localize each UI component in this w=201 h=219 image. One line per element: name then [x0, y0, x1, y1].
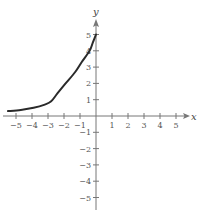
y-tick-label: 5: [86, 31, 91, 40]
y-tick-label: 2: [86, 79, 91, 88]
x-tick-label: 3: [141, 121, 146, 130]
y-tick-label: −1: [79, 128, 91, 137]
x-tick-label: −4: [26, 121, 38, 130]
y-tick-label: −4: [79, 177, 91, 186]
x-axis-label: x: [191, 111, 197, 122]
x-tick-label: 2: [125, 121, 130, 130]
y-axis-label: y: [92, 6, 99, 17]
x-tick-label: −5: [10, 121, 22, 130]
x-tick-label: 5: [173, 121, 178, 130]
plot-curves: [8, 35, 96, 112]
x-tick-label: −3: [42, 121, 54, 130]
coordinate-plane: −5−4−3−2−112345 −5−4−3−2−112345 x y: [0, 0, 201, 219]
y-tick-label: −5: [79, 194, 91, 203]
y-tick-label: −2: [79, 145, 91, 154]
x-tick-label: 1: [109, 121, 114, 130]
y-tick-label: 3: [86, 63, 91, 72]
x-tick-label: −2: [58, 121, 70, 130]
y-tick-label: −3: [79, 161, 91, 170]
data-curve: [8, 35, 96, 112]
x-tick-label: 4: [157, 121, 162, 130]
y-tick-label: 1: [86, 96, 91, 105]
